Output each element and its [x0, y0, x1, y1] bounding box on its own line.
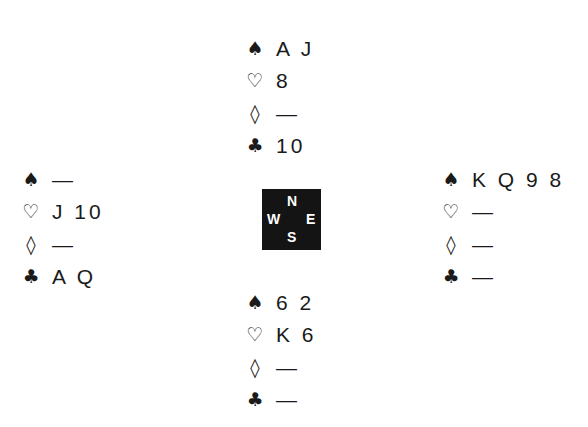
east-spades-cards: K Q 9 8: [472, 169, 564, 190]
club-icon: ♣: [22, 267, 40, 286]
east-spades-row: ♠ K Q 9 8: [442, 163, 564, 196]
north-clubs-row: ♣ 10: [246, 130, 314, 163]
west-hearts-cards: J 10: [52, 201, 104, 222]
north-hearts-cards: 8: [276, 70, 291, 91]
compass-east-label: E: [306, 212, 315, 226]
south-spades-cards: 6 2: [276, 292, 314, 313]
south-hearts-cards: K 6: [276, 324, 317, 345]
spade-icon: ♠: [442, 170, 460, 189]
west-clubs-cards: A Q: [52, 266, 96, 287]
club-icon: ♣: [246, 390, 264, 409]
north-hearts-row: ♡ 8: [246, 65, 314, 98]
north-clubs-cards: 10: [276, 135, 305, 156]
east-hearts-row: ♡ —: [442, 196, 564, 229]
east-clubs-cards: —: [472, 266, 496, 287]
east-hearts-cards: —: [472, 201, 496, 222]
compass-south-label: S: [287, 230, 296, 244]
west-hearts-row: ♡ J 10: [22, 196, 104, 229]
diamond-icon: ◊: [22, 235, 40, 254]
south-diamonds-cards: —: [276, 357, 300, 378]
compass-west-label: W: [267, 212, 280, 226]
east-clubs-row: ♣ —: [442, 261, 564, 294]
compass-north-label: N: [287, 194, 297, 208]
west-spades-cards: —: [52, 169, 76, 190]
west-hand: ♠ — ♡ J 10 ◊ — ♣ A Q: [22, 163, 104, 293]
south-hearts-row: ♡ K 6: [246, 319, 317, 352]
heart-icon: ♡: [246, 71, 264, 90]
club-icon: ♣: [246, 136, 264, 155]
club-icon: ♣: [442, 267, 460, 286]
north-hand: ♠ A J ♡ 8 ◊ — ♣ 10: [246, 32, 314, 162]
diamond-icon: ◊: [246, 104, 264, 123]
spade-icon: ♠: [22, 170, 40, 189]
west-clubs-row: ♣ A Q: [22, 261, 104, 294]
east-diamonds-row: ◊ —: [442, 228, 564, 261]
south-spades-row: ♠ 6 2: [246, 286, 317, 319]
west-diamonds-cards: —: [52, 234, 76, 255]
north-diamonds-cards: —: [276, 103, 300, 124]
diamond-icon: ◊: [246, 358, 264, 377]
south-clubs-cards: —: [276, 389, 300, 410]
compass-box: N W E S: [262, 189, 321, 250]
east-hand: ♠ K Q 9 8 ♡ — ◊ — ♣ —: [442, 163, 564, 293]
north-diamonds-row: ◊ —: [246, 97, 314, 130]
north-spades-cards: A J: [276, 38, 314, 59]
west-diamonds-row: ◊ —: [22, 228, 104, 261]
heart-icon: ♡: [22, 202, 40, 221]
spade-icon: ♠: [246, 39, 264, 58]
spade-icon: ♠: [246, 293, 264, 312]
north-spades-row: ♠ A J: [246, 32, 314, 65]
south-hand: ♠ 6 2 ♡ K 6 ◊ — ♣ —: [246, 286, 317, 416]
heart-icon: ♡: [442, 202, 460, 221]
south-clubs-row: ♣ —: [246, 384, 317, 417]
south-diamonds-row: ◊ —: [246, 351, 317, 384]
heart-icon: ♡: [246, 325, 264, 344]
east-diamonds-cards: —: [472, 234, 496, 255]
diamond-icon: ◊: [442, 235, 460, 254]
west-spades-row: ♠ —: [22, 163, 104, 196]
